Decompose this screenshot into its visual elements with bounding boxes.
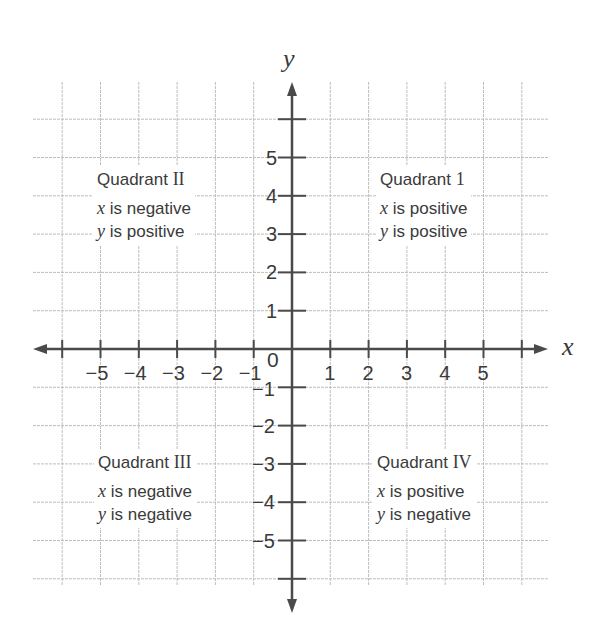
y-variable: y [380,221,388,241]
y-sign-text: is positive [105,222,184,241]
y-axis-up-arrow-icon [287,82,297,96]
y-tick-label: −2 [252,416,275,436]
x-variable: x [98,481,106,501]
quadrant-4-title: Quadrant IV [377,451,472,474]
x-sign-text: is negative [105,199,191,218]
y-sign-text: is negative [106,505,192,524]
y-sign-text: is positive [388,222,467,241]
y-sign-text: is negative [385,505,471,524]
x-tick-label: 5 [478,363,489,383]
quadrant-word: Quadrant [377,453,448,472]
quadrant-word: Quadrant [380,170,451,189]
quadrant-numeral: III [174,452,192,472]
y-variable: y [98,504,106,524]
quadrant-word: Quadrant [98,453,169,472]
y-axis-down-arrow-icon [287,599,297,613]
quadrant-1-y-sign: y is positive [380,220,467,243]
quadrant-4-x-sign: x is positive [377,480,472,503]
coordinate-plane [0,0,606,639]
x-sign-text: is positive [385,482,464,501]
x-tick-label: −4 [124,363,147,383]
y-tick-label: 3 [266,224,277,244]
y-tick-label: −1 [252,379,275,399]
quadrant-1-label: Quadrant 1 x is positive y is positive [376,166,471,245]
quadrant-3-title: Quadrant III [98,451,192,474]
quadrant-4-label: Quadrant IV x is positive y is negative [373,449,476,528]
x-tick-label: −2 [200,363,223,383]
x-variable: x [377,481,385,501]
x-tick-label: 2 [363,363,374,383]
quadrant-numeral: IV [453,452,472,472]
x-tick-label: 1 [324,363,335,383]
x-variable: x [97,198,105,218]
quadrant-2-title: Quadrant II [97,168,191,191]
x-sign-text: is negative [106,482,192,501]
quadrant-3-y-sign: y is negative [98,503,192,526]
y-variable: y [377,504,385,524]
quadrant-1-x-sign: x is positive [380,197,467,220]
x-tick-label: −3 [162,363,185,383]
x-tick-label: 4 [439,363,450,383]
quadrant-2-x-sign: x is negative [97,197,191,220]
quadrant-numeral: II [173,169,185,189]
x-sign-text: is positive [388,199,467,218]
y-tick-label: −3 [252,454,275,474]
quadrant-2-y-sign: y is positive [97,220,191,243]
x-axis-label: x [562,332,574,362]
quadrant-2-label: Quadrant II x is negative y is positive [93,166,195,245]
quadrant-3-label: Quadrant III x is negative y is negative [94,449,196,528]
quadrant-word: Quadrant [97,170,168,189]
y-variable: y [97,221,105,241]
x-axis-right-arrow-icon [534,344,548,354]
quadrant-1-title: Quadrant 1 [380,168,467,191]
x-axis-left-arrow-icon [33,344,47,354]
quadrant-numeral: 1 [456,169,465,189]
axes [33,82,548,613]
y-axis-label: y [283,44,295,74]
y-tick-label: 4 [266,186,277,206]
y-tick-label: −4 [252,492,275,512]
y-tick-label: 5 [266,148,277,168]
y-tick-label: 1 [266,301,277,321]
y-tick-label: −5 [252,531,275,551]
x-tick-label: 3 [401,363,412,383]
y-tick-label: 2 [266,262,277,282]
quadrant-3-x-sign: x is negative [98,480,192,503]
origin-label: 0 [267,350,279,370]
quadrant-4-y-sign: y is negative [377,503,472,526]
x-tick-label: −5 [86,363,109,383]
x-variable: x [380,198,388,218]
